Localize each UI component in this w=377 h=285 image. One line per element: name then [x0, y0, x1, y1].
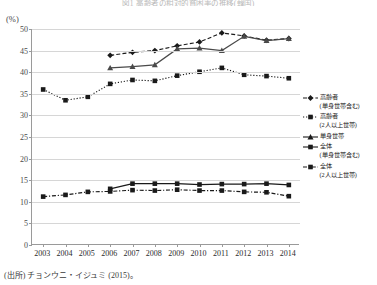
- x-axis-tick-label: 2006: [101, 249, 117, 258]
- x-axis-tick-mark: [155, 244, 156, 247]
- data-point-marker: [264, 181, 269, 186]
- y-axis-tick-mark: [29, 159, 32, 160]
- y-axis-tick-label: 5: [24, 219, 28, 228]
- data-point-marker: [308, 95, 314, 101]
- gridline: [32, 72, 300, 73]
- legend-item-series-single-household[interactable]: 単身世帯: [303, 132, 377, 141]
- legend-sublabel: (2人以上世帯): [320, 121, 357, 130]
- y-axis-tick-label: 30: [20, 111, 28, 120]
- legend-label: 高齢者(単身世帯含む): [320, 93, 360, 111]
- x-axis-tick-label: 2013: [258, 249, 274, 258]
- gridline: [32, 180, 300, 181]
- data-point-marker: [264, 190, 269, 195]
- data-point-marker: [175, 181, 180, 186]
- data-point-marker: [153, 188, 158, 193]
- y-axis-tick-label: 15: [20, 176, 28, 185]
- legend-sublabel: (単身世帯含む): [320, 102, 360, 111]
- data-point-marker: [63, 98, 68, 103]
- data-point-marker: [130, 188, 135, 193]
- legend-swatch-icon: [303, 133, 318, 141]
- data-point-marker: [220, 66, 225, 71]
- y-axis-tick-label: 0: [24, 241, 28, 250]
- legend-item-series-total-incl-single[interactable]: 全体(単身世帯含む): [303, 142, 377, 160]
- legend-label: 全体(単身世帯含む): [320, 142, 360, 160]
- plot-area: 05101520253035404550: [31, 29, 299, 245]
- series-line: [43, 190, 289, 197]
- legend-item-series-elderly-two-plus[interactable]: 高齢者(2人以上世帯): [303, 112, 377, 130]
- chart-legend: 高齢者(単身世帯含む)高齢者(2人以上世帯)単身世帯全体(単身世帯含む)全体(2…: [303, 93, 377, 181]
- y-axis-tick-mark: [29, 51, 32, 52]
- y-axis-tick-label: 40: [20, 68, 28, 77]
- data-point-marker: [130, 181, 135, 186]
- gridline: [32, 115, 300, 116]
- y-axis-tick-label: 35: [20, 89, 28, 98]
- x-axis-tick-label: 2009: [168, 249, 184, 258]
- x-axis-tick-mark: [267, 244, 268, 247]
- x-axis-tick-mark: [222, 244, 223, 247]
- legend-label: 全体(2人以上世帯): [320, 162, 357, 180]
- data-point-marker: [63, 193, 68, 198]
- legend-label: 単身世帯: [320, 132, 344, 141]
- legend-sublabel: (2人以上世帯): [320, 171, 357, 180]
- y-axis-tick-label: 45: [20, 46, 28, 55]
- x-axis-tick-mark: [244, 244, 245, 247]
- legend-label: 高齢者(2人以上世帯): [320, 112, 357, 130]
- data-point-marker: [219, 30, 225, 36]
- data-point-marker: [175, 73, 180, 78]
- y-axis-tick-mark: [29, 29, 32, 30]
- gridline: [32, 159, 300, 160]
- figure-title: 図1 高齢者の相対的貧困率の推移(韓国): [0, 0, 377, 6]
- data-point-marker: [287, 76, 292, 81]
- y-axis-tick-mark: [29, 245, 32, 246]
- data-point-marker: [308, 145, 313, 150]
- y-axis-tick-label: 20: [20, 154, 28, 163]
- x-axis-tick-label: 2005: [79, 249, 95, 258]
- x-axis-tick-mark: [88, 244, 89, 247]
- data-point-marker: [242, 190, 247, 195]
- x-axis-tick-mark: [133, 244, 134, 247]
- y-axis-tick-mark: [29, 180, 32, 181]
- data-point-marker: [264, 74, 269, 79]
- gridline: [32, 223, 300, 224]
- gridline: [32, 137, 300, 138]
- data-point-marker: [107, 52, 113, 58]
- data-point-marker: [41, 87, 46, 92]
- data-point-marker: [287, 183, 292, 188]
- data-point-marker: [86, 95, 91, 100]
- gridline: [32, 29, 300, 30]
- legend-swatch-icon: [303, 143, 318, 151]
- data-point-marker: [86, 190, 91, 195]
- data-point-marker: [108, 82, 113, 87]
- legend-item-series-elderly-incl-single[interactable]: 高齢者(単身世帯含む): [303, 93, 377, 111]
- x-axis-tick-label: 2004: [57, 249, 73, 258]
- series-4: [41, 187, 291, 199]
- data-point-marker: [287, 194, 292, 199]
- data-point-marker: [308, 115, 313, 120]
- data-point-marker: [108, 189, 113, 194]
- legend-swatch-icon: [303, 94, 318, 102]
- y-axis-tick-mark: [29, 202, 32, 203]
- x-axis-tick-mark: [177, 244, 178, 247]
- source-note: (出所) チョンウニ・イジュミ (2015)。: [4, 269, 138, 280]
- data-point-marker: [308, 165, 313, 170]
- series-1: [41, 66, 291, 103]
- x-axis-tick-label: 2012: [235, 249, 251, 258]
- y-axis-tick-mark: [29, 72, 32, 73]
- data-point-marker: [130, 78, 135, 83]
- y-axis-tick-mark: [29, 94, 32, 95]
- x-axis-tick-mark: [110, 244, 111, 247]
- x-axis-tick-label: 2010: [191, 249, 207, 258]
- x-axis-tick-mark: [43, 244, 44, 247]
- series-0: [107, 30, 291, 58]
- legend-swatch-icon: [303, 113, 318, 121]
- y-axis-tick-label: 50: [20, 25, 28, 34]
- legend-sublabel: (単身世帯含む): [320, 151, 360, 160]
- y-axis-tick-label: 10: [20, 197, 28, 206]
- legend-item-series-total-two-plus[interactable]: 全体(2人以上世帯): [303, 162, 377, 180]
- data-point-marker: [153, 79, 158, 84]
- data-point-marker: [175, 187, 180, 192]
- y-axis-tick-mark: [29, 223, 32, 224]
- data-point-marker: [220, 182, 225, 187]
- y-axis-unit-label: (%): [6, 14, 19, 24]
- data-point-marker: [197, 182, 202, 187]
